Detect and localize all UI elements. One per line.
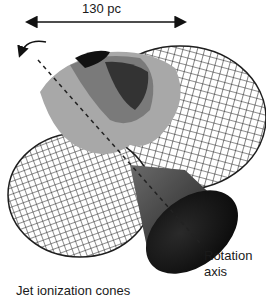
jet-ionization-cone bbox=[130, 165, 254, 291]
jet-cones-label: Jet ionization cones bbox=[16, 283, 130, 298]
rotation-arrow-icon bbox=[20, 41, 46, 55]
rotation-axis-label: Rotation bbox=[204, 248, 252, 263]
torus-lobe-lower-left bbox=[8, 133, 152, 257]
rotation-axis-label-line2: axis bbox=[204, 264, 227, 279]
scale-bar-label: 130 pc bbox=[82, 1, 121, 16]
